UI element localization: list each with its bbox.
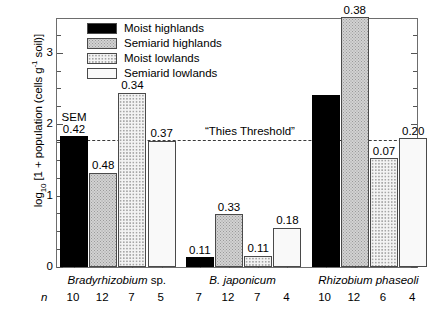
y-tick-mark <box>57 267 63 268</box>
y-axis-title-prefix: log <box>32 192 44 207</box>
sample-size-value: 7 <box>196 291 202 303</box>
bar: 0.48 <box>89 173 117 267</box>
bar-value-label: 0.18 <box>276 215 298 227</box>
legend-swatch <box>87 68 117 79</box>
y-tick-mark-right <box>413 106 417 107</box>
y-tick-label: 0 <box>47 261 53 273</box>
chart-figure: log10 [1 + population (cells g-1 soil)] … <box>0 0 434 315</box>
y-tick-label: 3 <box>47 47 53 59</box>
bar-value-label: 0.37 <box>150 128 172 140</box>
y-tick-mark <box>57 106 61 107</box>
sample-size-value: 6 <box>380 291 386 303</box>
sample-size-row-label: n <box>41 291 47 303</box>
bar-value-label: 0.07 <box>373 146 395 158</box>
legend-item: Moist lowlands <box>87 51 222 66</box>
y-tick-label: 1 <box>47 190 53 202</box>
y-tick-label: 2 <box>47 118 53 130</box>
sample-size-value: 12 <box>96 291 109 303</box>
bar-value-label: 0.33 <box>218 202 240 214</box>
legend-item: Semiarid lowlands <box>87 66 222 81</box>
chart-legend: Moist highlandsSemiarid highlandsMoist l… <box>87 21 222 81</box>
y-axis-title-sup: -1 <box>30 61 39 68</box>
legend-swatch <box>87 38 117 49</box>
bar: 0.38 <box>341 17 369 267</box>
bar-value-label: SEM0.42 <box>62 112 87 135</box>
group-label-species: Bradyrhizobium <box>68 274 148 286</box>
sample-size-value: 5 <box>157 291 163 303</box>
legend-item: Moist highlands <box>87 21 222 36</box>
legend-label: Semiarid lowlands <box>124 68 217 80</box>
bar: 0.11 <box>244 256 272 267</box>
sample-size-value: 10 <box>67 291 80 303</box>
sample-size-value: 10 <box>318 291 331 303</box>
thies-threshold-label: “Thies Threshold” <box>205 125 295 137</box>
group-label: Rhizobium phaseoli <box>318 274 418 286</box>
y-tick-mark <box>57 35 61 36</box>
y-axis-title-mid: [1 + population (cells g <box>32 68 44 184</box>
group-label-species: Rhizobium phaseoli <box>318 274 418 286</box>
legend-label: Semiarid highlands <box>124 38 222 50</box>
bar: 0.07 <box>370 158 398 267</box>
bar: 0.34 <box>118 93 146 267</box>
y-tick-mark <box>57 71 61 72</box>
bar: 0.11 <box>186 257 214 267</box>
y-tick-mark-right <box>413 35 417 36</box>
sample-size-value: 7 <box>128 291 134 303</box>
plot-area: 0123 “Thies Threshold” SEM0.420.480.340.… <box>56 18 418 268</box>
legend-label: Moist lowlands <box>124 53 199 65</box>
legend-swatch <box>87 23 117 34</box>
legend-item: Semiarid highlands <box>87 36 222 51</box>
sample-size-value: 12 <box>347 291 360 303</box>
legend-label: Moist highlands <box>124 23 204 35</box>
bar: 0.20 <box>399 138 427 267</box>
bar-value-label: 0.11 <box>189 245 211 257</box>
y-axis-title-suffix: soil)] <box>32 34 44 61</box>
sem-value: 0.42 <box>63 123 85 135</box>
group-label-species: B. japonicum <box>209 274 275 286</box>
y-tick-mark <box>57 53 63 54</box>
sample-size-value: 12 <box>222 291 235 303</box>
sample-size-value: 4 <box>409 291 415 303</box>
group-label-suffix: sp. <box>147 274 166 286</box>
y-axis-title: log10 [1 + population (cells g-1 soil)] <box>30 0 47 246</box>
y-tick-mark <box>57 88 61 89</box>
bar: 0.18 <box>273 228 301 267</box>
bar-value-label: 0.38 <box>344 5 366 17</box>
bar-value-label: 0.48 <box>92 160 114 172</box>
sample-size-value: 7 <box>254 291 260 303</box>
group-label: B. japonicum <box>209 274 275 286</box>
y-tick-mark-right <box>411 53 417 54</box>
legend-swatch <box>87 53 117 64</box>
bar <box>312 95 340 267</box>
bar: 0.37 <box>148 141 176 267</box>
sample-size-value: 4 <box>283 291 289 303</box>
bar-value-label: 0.34 <box>121 80 143 92</box>
bar-value-label: 0.20 <box>402 126 424 138</box>
y-tick-mark-right <box>413 71 417 72</box>
bar: SEM0.42 <box>60 136 88 267</box>
bar-value-label: 0.11 <box>247 243 269 255</box>
group-label: Bradyrhizobium sp. <box>68 274 166 286</box>
y-tick-mark-right <box>413 88 417 89</box>
bar: 0.33 <box>215 214 243 267</box>
